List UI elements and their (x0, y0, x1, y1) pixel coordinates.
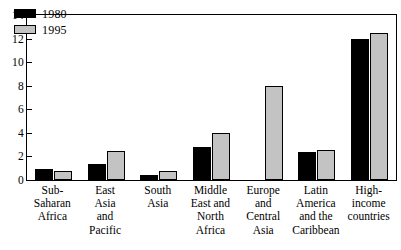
x-axis-category-line: Pacific (79, 224, 132, 237)
bar-1980 (351, 39, 369, 180)
x-axis-category-line: East (79, 184, 132, 197)
y-tick-mark (27, 86, 32, 87)
x-axis-category-line: and (79, 210, 132, 223)
x-axis-category-label: Sub-SaharanAfrica (26, 184, 79, 224)
y-tick-mark (27, 62, 32, 63)
x-axis-category-line: income (342, 197, 395, 210)
legend-item-1980: 1980 (14, 6, 67, 21)
x-axis-category-line: countries (342, 210, 395, 223)
bar-1980 (88, 164, 106, 181)
plot-area (26, 14, 397, 181)
legend-label-1980: 1980 (42, 8, 67, 20)
bar-1995 (107, 151, 125, 180)
x-axis-category-line: Asia (79, 197, 132, 210)
x-axis: Sub-SaharanAfricaEastAsiaandPacificSouth… (26, 184, 397, 248)
bar-group (238, 15, 291, 180)
bar-1995 (265, 86, 283, 180)
x-axis-category-line: North (184, 210, 237, 223)
x-axis-category-line: Latin (290, 184, 343, 197)
y-tick-label: 6 (0, 104, 24, 115)
x-axis-category-line: East and (184, 197, 237, 210)
x-axis-category-line: Asia (131, 197, 184, 210)
x-axis-category-line: Africa (26, 210, 79, 223)
bar-1980 (298, 152, 316, 180)
y-tick-label: 4 (0, 127, 24, 138)
bar-chart: 02468101214 1980 1995 Sub-SaharanAfricaE… (0, 0, 401, 250)
x-axis-category-line: Saharan (26, 197, 79, 210)
bar-group (132, 15, 185, 180)
x-axis-category-line: and (237, 197, 290, 210)
y-tick-label: 8 (0, 80, 24, 91)
legend-swatch-1995-icon (14, 25, 36, 34)
bar-1980 (35, 169, 53, 180)
x-axis-category-line: Caribbean (290, 224, 343, 237)
bar-group (291, 15, 344, 180)
x-axis-category-line: America (290, 197, 343, 210)
y-tick-mark (27, 39, 32, 40)
bar-1995 (54, 171, 72, 180)
bars-layer (27, 15, 396, 180)
y-tick-mark (27, 156, 32, 157)
x-axis-category-label: SouthAsia (131, 184, 184, 210)
x-axis-category-line: Asia (237, 224, 290, 237)
y-tick-label: 0 (0, 175, 24, 186)
x-axis-category-label: EuropeandCentralAsia (237, 184, 290, 237)
bar-1995 (317, 150, 335, 180)
legend-label-1995: 1995 (42, 24, 67, 36)
legend-item-1995: 1995 (14, 22, 67, 37)
x-axis-category-label: High-incomecountries (342, 184, 395, 224)
bar-group (185, 15, 238, 180)
bar-group (343, 15, 396, 180)
y-tick-label: 2 (0, 151, 24, 162)
y-tick-mark (27, 133, 32, 134)
y-tick-mark (27, 109, 32, 110)
x-axis-category-line: Middle (184, 184, 237, 197)
bar-1980 (193, 147, 211, 180)
bar-1980 (140, 175, 158, 180)
bar-1995 (212, 133, 230, 180)
x-axis-category-label: EastAsiaandPacific (79, 184, 132, 237)
x-axis-category-line: High- (342, 184, 395, 197)
y-tick-label: 10 (0, 57, 24, 68)
x-axis-category-line: South (131, 184, 184, 197)
x-axis-category-label: LatinAmericaand theCaribbean (290, 184, 343, 237)
x-axis-category-line: and the (290, 210, 343, 223)
bar-group (80, 15, 133, 180)
chart-legend: 1980 1995 (14, 6, 67, 38)
bar-group (27, 15, 80, 180)
legend-swatch-1980-icon (14, 9, 36, 18)
x-axis-category-line: Europe (237, 184, 290, 197)
bar-1995 (159, 171, 177, 180)
x-axis-category-line: Central (237, 210, 290, 223)
x-axis-category-label: MiddleEast andNorthAfrica (184, 184, 237, 237)
x-axis-category-line: Sub- (26, 184, 79, 197)
bar-1995 (370, 33, 388, 180)
x-axis-category-line: Africa (184, 224, 237, 237)
